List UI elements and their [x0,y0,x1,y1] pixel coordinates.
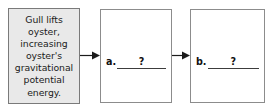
answer-question-mark-b: ? [208,55,259,68]
arrow-right-icon [172,49,190,62]
answer-blank-b[interactable]: ? [208,55,259,69]
flow-step-a-box[interactable]: a. ? [100,9,172,103]
answer-label-b: b. [196,55,208,68]
cause-text: Gull lifts oyster, increasing oyster's g… [9,14,79,99]
answer-blank-a[interactable]: ? [117,55,166,69]
answer-row-a: a. ? [101,55,171,73]
answer-question-mark-a: ? [117,55,166,68]
answer-label-a: a. [106,55,117,68]
flow-chart-diagram: Gull lifts oyster, increasing oyster's g… [0,0,273,111]
arrow-right-icon [80,49,100,62]
flow-step-cause-box: Gull lifts oyster, increasing oyster's g… [8,8,80,104]
flow-step-b-box[interactable]: b. ? [190,9,265,103]
answer-row-b: b. ? [191,55,264,73]
